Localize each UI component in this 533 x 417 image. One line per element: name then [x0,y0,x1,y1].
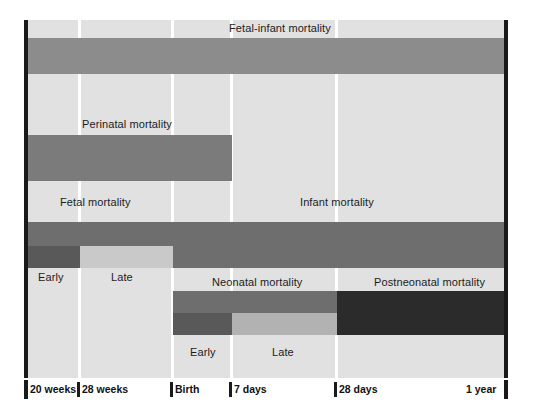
bar-neonatal-late [232,313,337,335]
bar-fetal-late [80,246,173,268]
bar-perinatal-mortality [28,135,232,181]
bar-fetal-mortality [28,222,173,246]
bar-neonatal-early [173,313,232,335]
tick-1-year [504,380,508,399]
label-postneonatal-mortality: Postneonatal mortality [374,276,485,288]
tick-20-weeks [24,380,28,399]
ticklabel-birth: Birth [175,383,200,395]
label-neonatal-mortality: Neonatal mortality [212,276,302,288]
label-fetal-late: Late [111,271,133,283]
bar-infant-mortality [173,222,504,268]
label-infant-mortality: Infant mortality [300,196,374,208]
label-neonatal-late: Late [272,346,294,358]
bar-fetal-infant-mortality [28,38,504,74]
tick-7-days [229,382,232,397]
plot-right-rule [504,20,508,378]
bar-fetal-early [28,246,80,268]
tick-birth [170,382,173,397]
ticklabel-1-year: 1 year [466,383,496,395]
tick-28-days [334,382,337,397]
ticklabel-20-weeks: 20 weeks [30,383,76,395]
bar-postneonatal-mortality [337,291,504,335]
ticklabel-28-days: 28 days [339,383,378,395]
ticklabel-28-weeks: 28 weeks [82,383,128,395]
label-fetal-early: Early [38,271,64,283]
label-fetal-infant-mortality: Fetal-infant mortality [229,22,331,34]
mortality-timeline-diagram: Fetal-infant mortality Perinatal mortali… [0,0,533,417]
time-axis: 20 weeks 28 weeks Birth 7 days 28 days 1… [0,382,533,408]
bar-neonatal-mortality [173,291,337,313]
label-neonatal-early: Early [190,346,216,358]
label-fetal-mortality: Fetal mortality [60,196,131,208]
ticklabel-7-days: 7 days [234,383,267,395]
tick-28-weeks [77,382,80,397]
label-perinatal-mortality: Perinatal mortality [82,118,172,130]
